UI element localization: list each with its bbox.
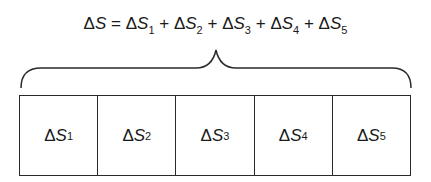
- subsystem-box-5: ΔS5: [333, 96, 410, 175]
- subsystem-box-3: ΔS3: [176, 96, 254, 175]
- subsystem-box-1: ΔS1: [20, 96, 98, 175]
- subsystem-box-2: ΔS2: [98, 96, 176, 175]
- subsystem-box-4: ΔS4: [255, 96, 333, 175]
- subsystem-boxes: ΔS1 ΔS2 ΔS3 ΔS4 ΔS5: [19, 95, 411, 176]
